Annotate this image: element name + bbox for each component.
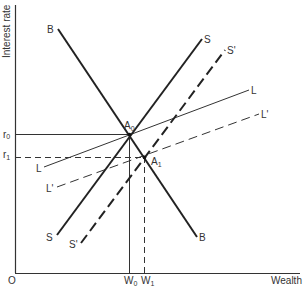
w1-label: W1 xyxy=(141,275,154,287)
r0-label: r0 xyxy=(3,129,10,140)
interest-wealth-diagram: Interest rate B B S S S' S' L L L' L' A0… xyxy=(0,0,307,290)
r1-label: r1 xyxy=(3,149,10,161)
s-prime-bottom-label: S' xyxy=(69,239,78,250)
x-axis-label: Wealth xyxy=(271,275,302,286)
s-prime-top-label: S' xyxy=(227,45,236,56)
s-prime-curve xyxy=(81,50,225,243)
l-right-label: L xyxy=(251,85,257,96)
l-left-label: L xyxy=(36,163,42,174)
w0-label: W0 xyxy=(124,275,137,287)
origin-label: O xyxy=(8,275,16,286)
s-top-label: S xyxy=(204,34,211,45)
y-axis-label: Interest rate xyxy=(1,4,12,58)
l-prime-right-label: L' xyxy=(261,109,269,120)
b-bottom-label: B xyxy=(199,232,206,243)
l-prime-left-label: L' xyxy=(46,183,54,194)
a0-label: A0 xyxy=(124,120,135,132)
a1-label: A1 xyxy=(151,156,162,168)
a1-point xyxy=(143,156,147,160)
a0-point xyxy=(128,133,132,137)
s-bottom-label: S xyxy=(46,232,53,243)
b-top-label: B xyxy=(47,24,54,35)
